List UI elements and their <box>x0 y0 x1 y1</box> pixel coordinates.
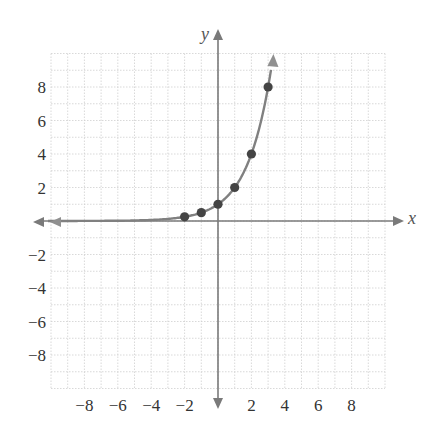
axes <box>33 29 404 409</box>
x-tick-label: 4 <box>281 396 290 415</box>
x-tick-label: −4 <box>142 396 161 415</box>
x-tick-label: −6 <box>109 396 127 415</box>
curve-arrow-top <box>267 54 278 67</box>
y-tick-label: −6 <box>28 313 46 332</box>
labels: y x −8−6−4−224688642−2−4−6−8 <box>28 24 416 415</box>
x-tick-label: 2 <box>247 396 256 415</box>
y-tick-label: 8 <box>38 78 47 97</box>
y-tick-label: 4 <box>38 145 47 164</box>
data-point <box>197 208 206 217</box>
x-axis-arrow-right <box>393 216 404 226</box>
data-point <box>247 149 256 158</box>
y-tick-label: 6 <box>38 112 47 131</box>
curve-layer <box>48 54 278 227</box>
y-axis-arrow-up <box>213 29 223 40</box>
data-point <box>180 212 189 221</box>
x-tick-label: −8 <box>75 396 93 415</box>
x-tick-label: 8 <box>347 396 356 415</box>
y-axis-label: y <box>199 24 209 44</box>
y-tick-label: −8 <box>28 346 46 365</box>
exponential-curve <box>48 70 271 221</box>
x-axis-arrow-left <box>33 217 44 227</box>
y-axis-arrow-down <box>213 398 223 409</box>
data-point <box>230 183 239 192</box>
x-axis-label: x <box>407 208 416 228</box>
exponential-graph: y x −8−6−4−224688642−2−4−6−8 <box>0 0 432 437</box>
data-point <box>213 200 222 209</box>
x-tick-label: −2 <box>176 396 194 415</box>
curve-arrow-left <box>50 217 61 227</box>
points-layer <box>180 82 273 221</box>
x-tick-label: 6 <box>314 396 323 415</box>
y-tick-label: 2 <box>38 179 47 198</box>
data-point <box>264 82 273 91</box>
y-tick-label: −2 <box>28 246 46 265</box>
y-tick-label: −4 <box>28 279 47 298</box>
